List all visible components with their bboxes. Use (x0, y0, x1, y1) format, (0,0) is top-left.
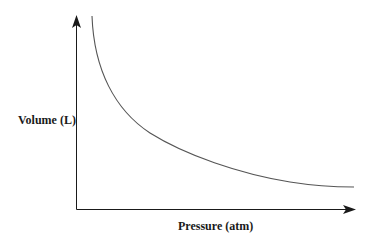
volume-pressure-curve (92, 16, 354, 187)
x-axis-label: Pressure (atm) (178, 219, 253, 234)
y-axis-label: Volume (L) (18, 113, 76, 128)
